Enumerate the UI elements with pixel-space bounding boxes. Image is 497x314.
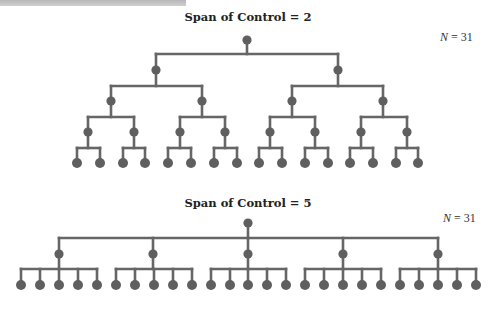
diagram-span-2: Span of Control = 2 N = 31 (72, 10, 473, 168)
diagram-title: Span of Control = 2 (184, 10, 311, 24)
manager-node (433, 249, 442, 258)
manager-node (265, 127, 274, 136)
leaf-node (54, 280, 64, 290)
manager-node (378, 96, 387, 105)
span-of-control-diagrams: Span of Control = 2 N = 31 Span of Contr… (0, 0, 497, 314)
leaf-node (281, 280, 291, 290)
leaf-node (149, 280, 159, 290)
leaf-node (300, 280, 310, 290)
leaf-node (471, 280, 481, 290)
leaf-node (277, 158, 287, 168)
leaf-node (413, 158, 423, 168)
leaf-node (232, 158, 242, 168)
leaf-node (300, 158, 310, 168)
leaf-node (414, 280, 424, 290)
leaf-node (345, 158, 355, 168)
diagram-span-5: Span of Control = 5 N = 31 (16, 196, 481, 290)
leaf-node (395, 280, 405, 290)
leaf-node (338, 280, 348, 290)
leaf-node (95, 158, 105, 168)
leaf-node (209, 158, 219, 168)
manager-node (333, 65, 342, 74)
leaf-node (319, 280, 329, 290)
leaf-node (452, 280, 462, 290)
leaf-node (130, 280, 140, 290)
leaf-node (225, 280, 235, 290)
leaf-node (391, 158, 401, 168)
manager-node (402, 127, 411, 136)
manager-node (287, 96, 296, 105)
leaf-node (368, 158, 378, 168)
root-node (243, 218, 252, 227)
leaf-node (187, 280, 197, 290)
leaf-node (262, 280, 272, 290)
manager-node (220, 127, 229, 136)
manager-node (83, 127, 92, 136)
leaf-node (357, 280, 367, 290)
manager-node (310, 127, 319, 136)
leaf-node (376, 280, 386, 290)
manager-node (338, 249, 347, 258)
leaf-node (254, 158, 264, 168)
leaf-node (118, 158, 128, 168)
leaf-node (433, 280, 443, 290)
leaf-node (16, 280, 26, 290)
leaf-node (323, 158, 333, 168)
node-count-label: N = 31 (439, 30, 473, 44)
root-node (242, 35, 251, 44)
manager-node (148, 249, 157, 258)
leaf-node (92, 280, 102, 290)
node-count-label: N = 31 (442, 211, 476, 225)
tree-edges (77, 40, 418, 163)
manager-node (129, 127, 138, 136)
leaf-node (73, 280, 83, 290)
manager-node (175, 127, 184, 136)
leaf-node (243, 280, 253, 290)
manager-node (54, 249, 63, 258)
manager-node (356, 127, 365, 136)
manager-node (243, 249, 252, 258)
leaf-node (168, 280, 178, 290)
leaf-node (35, 280, 45, 290)
leaf-node (206, 280, 216, 290)
manager-node (106, 96, 115, 105)
diagram-title: Span of Control = 5 (184, 196, 311, 210)
leaf-node (72, 158, 82, 168)
leaf-node (111, 280, 121, 290)
manager-node (151, 65, 160, 74)
leaf-node (163, 158, 173, 168)
manager-node (197, 96, 206, 105)
leaf-node (140, 158, 150, 168)
leaf-node (186, 158, 196, 168)
